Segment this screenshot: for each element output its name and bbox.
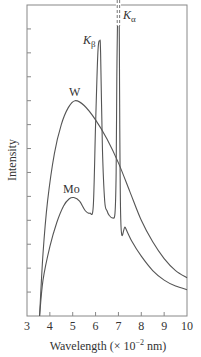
x-tick-label: 8: [138, 319, 144, 333]
w-series-label: W: [69, 85, 81, 99]
k-alpha-label: Kα: [122, 8, 136, 24]
x-tick-label: 9: [161, 319, 167, 333]
series-layer: [40, 0, 187, 316]
series-mo-line: [40, 0, 187, 316]
x-tick-label: 5: [70, 319, 76, 333]
xray-spectrum-chart: 345678910 Kβ Kα W Mo Intensity Wavelengt…: [0, 0, 201, 357]
series-w-line: [40, 101, 187, 316]
y-axis-ticks: [27, 29, 31, 292]
x-tick-label: 6: [93, 319, 99, 333]
x-axis-ticks: 345678910: [24, 312, 193, 333]
y-axis-title: Intensity: [5, 139, 19, 181]
k-alpha-dashed-extension: [116, 0, 121, 26]
x-tick-label: 7: [115, 319, 121, 333]
plot-frame: [27, 5, 187, 316]
k-beta-label: Kβ: [82, 33, 96, 49]
x-tick-label: 4: [47, 319, 53, 333]
mo-series-label: Mo: [63, 182, 80, 196]
x-tick-label: 3: [24, 319, 30, 333]
x-axis-title: Wavelength (× 10−2 nm): [50, 338, 167, 353]
x-tick-label: 10: [181, 319, 193, 333]
